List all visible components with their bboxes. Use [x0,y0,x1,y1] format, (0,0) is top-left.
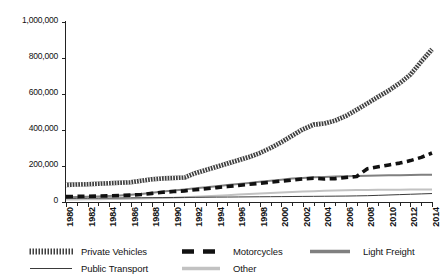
series-hatch-private-vehicles [66,49,432,185]
x-axis-tick-label: 2008 [366,207,376,227]
x-axis-tick [271,202,272,206]
x-axis-tick-label: 2004 [323,207,333,227]
x-axis-tick-label: 1998 [259,207,269,227]
series-line-private-vehicles [66,49,432,185]
x-axis-tick [292,202,293,206]
x-axis-tick [77,202,78,206]
x-axis-tick-label: 1992 [194,207,204,227]
x-axis-tick [378,202,379,206]
y-axis-tick-label: 200,000 [29,159,58,169]
x-axis-tick-label: 1990 [173,207,183,227]
legend-label-other: Other [233,263,256,274]
legend-row-1: Private Vehicles Motorcycles Light Freig… [0,243,445,259]
x-axis-tick [249,202,250,206]
legend-item-public-transport[interactable]: Public Transport [28,260,148,276]
x-axis-tick [335,202,336,206]
x-axis-tick-label: 2002 [302,207,312,227]
x-axis-tick [227,202,228,206]
x-axis-tick [357,202,358,206]
x-axis-tick-label: 1982 [87,207,97,227]
legend-item-other[interactable]: Other [180,260,256,276]
line-chart: 0200,000400,000600,000800,0001,000,000 1… [0,0,445,280]
x-axis-tick-label: 1996 [237,207,247,227]
x-axis-tick-label: 2006 [345,207,355,227]
y-axis-tick-label: 600,000 [29,87,58,97]
plot-area [66,22,432,202]
x-axis-tick [314,202,315,206]
x-axis-tick [141,202,142,206]
dashed-bold-swatch-icon [180,246,226,257]
series-container [66,22,432,202]
x-axis-tick-label: 2014 [431,207,441,227]
x-axis-tick-label: 1988 [151,207,161,227]
y-axis-tick-label: 1,000,000 [22,15,58,25]
x-axis-tick [98,202,99,206]
legend-label-light-freight: Light Freight [363,246,415,257]
y-axis-tick-label: 800,000 [29,51,58,61]
x-axis-tick [184,202,185,206]
x-axis-tick-label: 1994 [216,207,226,227]
legend-row-2: Public Transport Other [0,260,445,276]
hatched-thick-swatch-icon [28,246,74,257]
y-axis-tick-label: 0 [53,195,58,205]
legend-item-motorcycles[interactable]: Motorcycles [180,243,283,259]
legend-label-private-vehicles: Private Vehicles [81,246,147,257]
x-axis-tick-label: 2000 [280,207,290,227]
chart-legend: Private Vehicles Motorcycles Light Freig… [0,243,445,279]
x-axis-tick [120,202,121,206]
x-axis-labels: 1980198219841986198819901992199419961998… [66,207,432,241]
x-axis-tick-label: 1984 [108,207,118,227]
x-axis-tick [163,202,164,206]
x-axis-tick [400,202,401,206]
x-axis-tick-label: 1980 [65,207,75,227]
solid-medium-gray-swatch-icon [310,246,356,257]
x-axis-tick-label: 2012 [409,207,419,227]
y-axis-tick-label: 400,000 [29,123,58,133]
x-axis-tick [421,202,422,206]
solid-thin-dark-swatch-icon [28,263,74,274]
legend-item-private-vehicles[interactable]: Private Vehicles [28,243,147,259]
x-axis-tick [206,202,207,206]
solid-light-gray-swatch-icon [180,263,226,274]
x-axis-tick-label: 2010 [388,207,398,227]
legend-label-motorcycles: Motorcycles [233,246,283,257]
x-axis-tick-label: 1986 [130,207,140,227]
legend-label-public-transport: Public Transport [81,263,148,274]
legend-item-light-freight[interactable]: Light Freight [310,243,415,259]
